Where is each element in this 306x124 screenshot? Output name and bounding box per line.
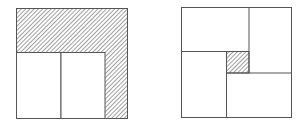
left-figure <box>17 9 128 119</box>
right-figure <box>182 8 292 118</box>
left-white-rect-1 <box>17 53 62 119</box>
right-hatched-center-square <box>227 52 250 74</box>
diagram-canvas <box>0 0 306 124</box>
left-white-rect-2 <box>61 53 105 119</box>
